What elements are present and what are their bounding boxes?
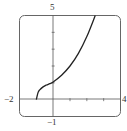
function-plot xyxy=(0,0,127,131)
x-min-label: −2 xyxy=(4,95,14,104)
y-max-label: 5 xyxy=(50,3,55,12)
axis-ticks xyxy=(52,32,104,101)
x-max-label: 4 xyxy=(122,95,127,104)
function-curve xyxy=(36,16,95,100)
y-min-label: −1 xyxy=(47,118,57,127)
